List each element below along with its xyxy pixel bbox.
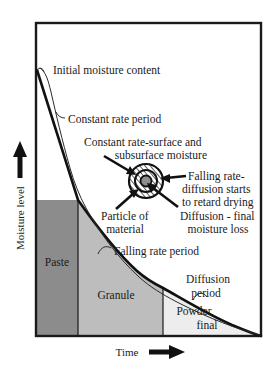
label-particle-of-material-line2: material bbox=[106, 223, 144, 235]
label-diffusion-period-line1: Diffusion bbox=[186, 273, 230, 285]
x-axis-label: Time bbox=[116, 346, 139, 358]
label-particle-of-material-line1: Particle of bbox=[101, 210, 149, 222]
label-constant-rate-period: Constant rate period bbox=[68, 113, 162, 126]
label-constant-rate-surface-line2: subsurface moisture bbox=[115, 149, 207, 161]
label-constant-rate-surface-line1: Constant rate-surface and bbox=[84, 136, 202, 148]
region-label-powder-line2: final bbox=[196, 319, 217, 331]
region-label-granule: Granule bbox=[97, 289, 134, 301]
label-diffusion-final-line2: moisture loss bbox=[187, 223, 249, 235]
drying-curve-figure: Moisture level Time Paste Granule Powder… bbox=[0, 0, 274, 370]
region-label-powder-line1: Powder bbox=[176, 305, 211, 317]
label-diffusion-final-line1: Diffusion - final bbox=[180, 210, 255, 222]
region-label-paste: Paste bbox=[45, 256, 69, 268]
label-falling-rate-period: Falling rate period bbox=[114, 245, 199, 258]
label-initial-moisture-content: Initial moisture content bbox=[53, 64, 161, 76]
label-falling-rate-diffusion-line2: diffusion starts bbox=[182, 183, 251, 195]
label-falling-rate-diffusion-line3: to retard drying bbox=[182, 196, 254, 209]
label-falling-rate-diffusion-line1: Falling rate- bbox=[188, 170, 245, 183]
region-paste bbox=[36, 200, 78, 336]
y-axis-label: Moisture level bbox=[14, 186, 26, 250]
label-diffusion-period-line2: period bbox=[191, 287, 221, 300]
